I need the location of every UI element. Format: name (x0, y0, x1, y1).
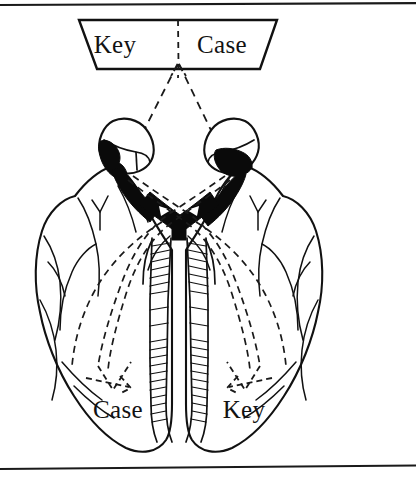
left-hemisphere-label: Case (93, 396, 143, 423)
right-hemisphere-label: Key (223, 396, 266, 423)
visual-field-right-label: Case (197, 31, 247, 58)
bottom-horizontal-rule (0, 466, 416, 470)
figure-root: Key Case Case Key (0, 0, 417, 479)
visual-field-left-label: Key (94, 31, 137, 58)
visual-field-left-label-group: Key (94, 31, 137, 58)
top-horizontal-rule (0, 3, 416, 5)
right-hemisphere-label-group: Key (223, 396, 266, 423)
visual-pathway-diagram: Key Case Case Key (0, 0, 417, 479)
visual-field-right-label-group: Case (197, 31, 247, 58)
left-hemisphere-label-group: Case (93, 396, 143, 423)
brain-outline (36, 166, 323, 452)
